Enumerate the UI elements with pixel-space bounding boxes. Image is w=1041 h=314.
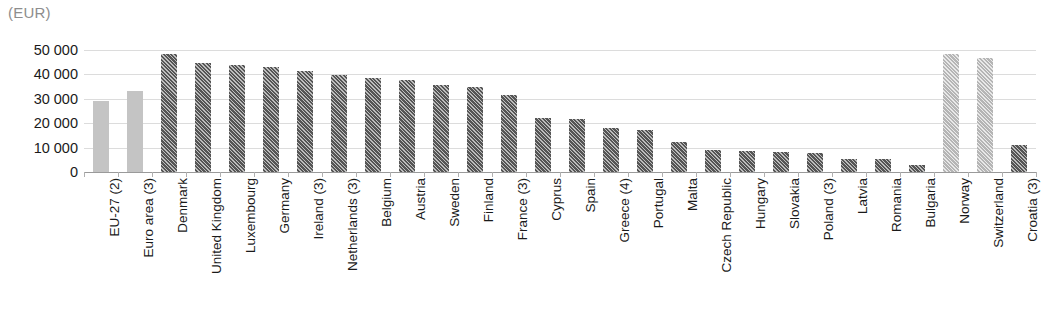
x-axis-tick xyxy=(254,172,255,177)
bar[interactable] xyxy=(875,159,891,172)
x-axis-labels: EU-27 (2)Euro area (3)DenmarkUnited King… xyxy=(84,178,1036,310)
bar-slot xyxy=(322,44,356,172)
y-axis-tick-label: 50 000 xyxy=(2,42,78,58)
bar[interactable] xyxy=(739,151,755,172)
x-axis-tick xyxy=(424,172,425,177)
x-axis-label: Portugal xyxy=(628,178,662,308)
x-axis-label: Cyprus xyxy=(526,178,560,308)
x-axis-tick xyxy=(322,172,323,177)
bar[interactable] xyxy=(399,80,415,172)
x-axis-tick xyxy=(1036,172,1037,177)
x-axis-tick xyxy=(730,172,731,177)
x-axis-tick xyxy=(1002,172,1003,177)
bar-slot xyxy=(492,44,526,172)
bar[interactable] xyxy=(569,119,585,172)
x-axis-tick xyxy=(798,172,799,177)
bar[interactable] xyxy=(161,54,177,172)
bar[interactable] xyxy=(127,91,143,172)
bar-slot xyxy=(900,44,934,172)
x-axis-tick xyxy=(594,172,595,177)
y-axis-tick-label: 30 000 xyxy=(2,91,78,107)
x-axis-tick xyxy=(662,172,663,177)
bar[interactable] xyxy=(467,87,483,172)
bar-slot xyxy=(254,44,288,172)
x-axis-label: France (3) xyxy=(492,178,526,308)
bar[interactable] xyxy=(331,75,347,172)
x-axis-tick xyxy=(764,172,765,177)
bar-chart: (EUR) 50 00040 00030 00020 00010 0000 EU… xyxy=(0,0,1041,314)
bar[interactable] xyxy=(535,118,551,172)
x-axis-label: United Kingdom xyxy=(186,178,220,308)
x-axis-label: Austria xyxy=(390,178,424,308)
x-axis-tick xyxy=(900,172,901,177)
x-axis-label: Euro area (3) xyxy=(118,178,152,308)
bar[interactable] xyxy=(501,95,517,172)
bar[interactable] xyxy=(297,71,313,172)
x-axis-label-text: Croatia (3) xyxy=(1026,178,1040,242)
x-axis-label: Romania xyxy=(866,178,900,308)
x-axis-label: Hungary xyxy=(730,178,764,308)
bar[interactable] xyxy=(909,165,925,172)
x-axis-label: Finland xyxy=(458,178,492,308)
x-axis-tick xyxy=(288,172,289,177)
x-axis-label: Netherlands (3) xyxy=(322,178,356,308)
bar[interactable] xyxy=(637,130,653,172)
bar[interactable] xyxy=(705,150,721,172)
bar-slot xyxy=(390,44,424,172)
x-axis-label: Switzerland xyxy=(968,178,1002,308)
bar-slot xyxy=(968,44,1002,172)
x-axis-label: Belgium xyxy=(356,178,390,308)
x-axis-tick xyxy=(560,172,561,177)
bar-slot xyxy=(186,44,220,172)
bar-slot xyxy=(84,44,118,172)
bar[interactable] xyxy=(773,152,789,172)
x-axis-tick xyxy=(356,172,357,177)
bar-slot xyxy=(866,44,900,172)
bar-slot xyxy=(832,44,866,172)
x-axis-label: Greece (4) xyxy=(594,178,628,308)
bar-slot xyxy=(220,44,254,172)
bar[interactable] xyxy=(943,54,959,172)
bar-slot xyxy=(764,44,798,172)
x-axis-label: Poland (3) xyxy=(798,178,832,308)
x-axis-tick xyxy=(390,172,391,177)
x-axis-label: Ireland (3) xyxy=(288,178,322,308)
bar[interactable] xyxy=(603,128,619,172)
x-axis-tick xyxy=(458,172,459,177)
bar[interactable] xyxy=(229,65,245,172)
x-axis-tick xyxy=(832,172,833,177)
bar[interactable] xyxy=(263,67,279,172)
bar-slot xyxy=(458,44,492,172)
bar[interactable] xyxy=(1011,145,1027,172)
bar-slot xyxy=(628,44,662,172)
x-axis-label: Denmark xyxy=(152,178,186,308)
bar-slot xyxy=(934,44,968,172)
y-axis: 50 00040 00030 00020 00010 0000 xyxy=(0,44,78,172)
bar[interactable] xyxy=(93,101,109,172)
x-axis-label: Latvia xyxy=(832,178,866,308)
y-axis-tick-label: 20 000 xyxy=(2,115,78,131)
bar[interactable] xyxy=(671,142,687,173)
bar-slot xyxy=(288,44,322,172)
x-axis-label: Croatia (3) xyxy=(1002,178,1036,308)
bar-slot xyxy=(798,44,832,172)
bar[interactable] xyxy=(433,85,449,172)
x-axis-label: Germany xyxy=(254,178,288,308)
x-axis-label: EU-27 (2) xyxy=(84,178,118,308)
x-axis-label: Czech Republic xyxy=(696,178,730,308)
x-axis-label: Sweden xyxy=(424,178,458,308)
bar-slot xyxy=(424,44,458,172)
x-axis-tick xyxy=(220,172,221,177)
bar[interactable] xyxy=(977,58,993,172)
bar[interactable] xyxy=(195,63,211,172)
x-axis-tick xyxy=(84,172,85,177)
bar[interactable] xyxy=(365,78,381,172)
bar[interactable] xyxy=(807,153,823,172)
bar-slot xyxy=(356,44,390,172)
x-axis-tick xyxy=(118,172,119,177)
y-axis-tick-label: 0 xyxy=(2,164,78,180)
x-axis-tick xyxy=(696,172,697,177)
bar[interactable] xyxy=(841,159,857,172)
x-axis-tick xyxy=(492,172,493,177)
bar-slot xyxy=(594,44,628,172)
